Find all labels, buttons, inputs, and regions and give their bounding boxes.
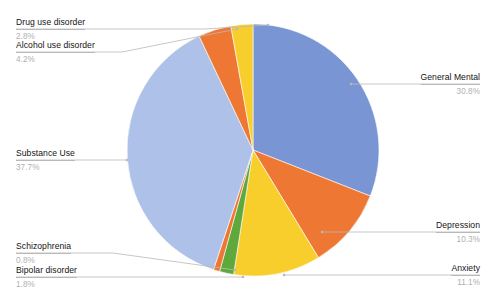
callout-percent-bipolar-disorder: 1.8% [16,278,77,290]
callout-percent-alcohol-use-disorder: 4.2% [16,53,95,65]
callout-percent-substance-use: 37.7% [16,161,75,173]
callout-anxiety: Anxiety 11.1% [451,263,480,288]
callout-label-depression: Depression [436,220,480,233]
callout-schizophrenia: Schizophrenia 0.8% [16,241,71,266]
callout-drug-use-disorder: Drug use disorder 2.8% [16,17,85,42]
leader-endpoint-bipolar [242,276,245,279]
pie-chart-figure: Drug use disorder 2.8% Alcohol use disor… [0,0,496,298]
callout-label-alcohol-use-disorder: Alcohol use disorder [16,40,95,53]
callout-percent-general-mental: 30.8% [421,85,480,97]
leader-endpoint-alcohol-use [236,28,239,31]
callout-depression: Depression 10.3% [436,220,480,245]
callout-label-bipolar-disorder: Bipolar disorder [16,265,77,278]
callout-label-substance-use: Substance Use [16,148,75,161]
pie-slice-group [127,24,379,276]
callout-substance-use: Substance Use 37.7% [16,148,75,173]
callout-label-schizophrenia: Schizophrenia [16,241,71,254]
leader-endpoint-substance-use [126,159,129,162]
leader-endpoint-drug-use [267,24,270,27]
callout-general-mental: General Mental 30.8% [421,72,480,97]
callout-label-general-mental: General Mental [421,72,480,85]
leader-endpoint-general-mental [350,83,353,86]
callout-percent-anxiety: 11.1% [451,276,480,288]
callout-percent-depression: 10.3% [436,233,480,245]
callout-alcohol-use-disorder: Alcohol use disorder 4.2% [16,40,95,65]
leader-endpoint-anxiety [283,274,286,277]
leader-endpoint-schizophrenia [234,269,237,272]
callout-bipolar-disorder: Bipolar disorder 1.8% [16,265,77,290]
callout-label-drug-use-disorder: Drug use disorder [16,17,85,30]
callout-label-anxiety: Anxiety [451,263,480,276]
leader-endpoint-depression [321,231,324,234]
